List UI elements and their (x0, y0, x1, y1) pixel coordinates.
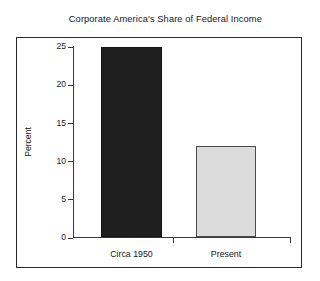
x-axis-line (73, 237, 291, 238)
y-tick-mark-10 (68, 161, 73, 162)
y-tick-mark-5 (68, 199, 73, 200)
y-tick-mark-20 (68, 85, 73, 86)
y-tick-label-10: 10 (56, 157, 66, 166)
y-axis-title: Percent (23, 127, 33, 157)
y-tick-label-15: 15 (56, 119, 66, 128)
y-tick-mark-15 (68, 123, 73, 124)
y-tick-label-25: 25 (56, 42, 66, 51)
x-tick-mark-middle (173, 238, 174, 243)
y-tick-label-5: 5 (61, 195, 66, 204)
bar-present[interactable] (196, 146, 256, 237)
y-tick-mark-25 (68, 47, 73, 48)
x-tick-mark-end (290, 238, 291, 243)
x-tick-label-circa-1950: Circa 1950 (101, 249, 162, 259)
chart-title-line-1: Corporate America's Share of Federal Inc… (69, 14, 262, 24)
y-tick-label-20: 20 (56, 80, 66, 89)
chart-figure: Corporate America's Share of Federal Inc… (0, 0, 320, 281)
y-axis-line (73, 46, 74, 238)
x-tick-label-present: Present (196, 249, 256, 259)
y-tick-label-0: 0 (61, 233, 66, 242)
bar-circa-1950[interactable] (101, 47, 162, 238)
